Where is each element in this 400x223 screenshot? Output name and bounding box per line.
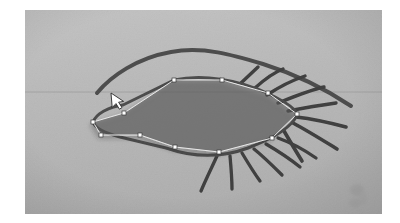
photo-layer [25,10,382,214]
screenshot-stage [0,0,400,223]
photo-canvas[interactable] [25,10,382,214]
photo-vignette [25,10,382,214]
